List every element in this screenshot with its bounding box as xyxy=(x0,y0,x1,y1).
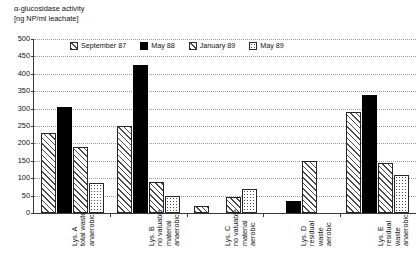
bar[interactable] xyxy=(57,107,72,213)
bar[interactable] xyxy=(41,133,56,213)
bar[interactable] xyxy=(286,201,301,213)
y-axis-tick-label: 350 xyxy=(18,87,30,94)
x-axis-tick-label: Lys. B no valuable material anaerobic xyxy=(148,188,182,246)
legend-label: January 89 xyxy=(200,41,236,50)
bar-group xyxy=(110,39,186,213)
x-axis-label-cell: Lys. B no valuable material anaerobic xyxy=(109,217,185,277)
y-axis-tick-label: 400 xyxy=(18,70,30,77)
legend-label: May 88 xyxy=(151,41,175,50)
legend-swatch-icon xyxy=(140,42,148,50)
y-axis-title: α-glucosidase activity [ng NP/ml leachat… xyxy=(14,4,84,23)
legend-label: September 87 xyxy=(81,41,126,50)
bar-group xyxy=(263,39,339,213)
legend-swatch-icon xyxy=(70,42,78,50)
bar[interactable] xyxy=(362,95,377,213)
x-axis-tick-label: Lys. E residual waste anaerobic xyxy=(377,188,411,246)
legend-swatch-icon xyxy=(249,42,257,50)
legend-item[interactable]: May 89 xyxy=(249,41,284,50)
y-axis-tick-label: 50 xyxy=(22,192,30,199)
x-axis-tick-label: Lys. A total waste anaerobic xyxy=(71,188,96,246)
bar[interactable] xyxy=(133,65,148,213)
y-axis-tick-label: 100 xyxy=(18,174,30,181)
bar[interactable] xyxy=(117,126,132,213)
y-axis-tick-label: 300 xyxy=(18,105,30,112)
chart-legend: September 87May 88January 89May 89 xyxy=(70,41,284,50)
bar[interactable] xyxy=(194,206,209,213)
x-axis-tick-label: Lys. C no valuable material aerobic xyxy=(224,188,258,246)
y-axis-tick-mark xyxy=(31,213,34,214)
x-axis-label-cell: Lys. C no valuable material aerobic xyxy=(186,217,262,277)
legend-item[interactable]: May 88 xyxy=(140,41,175,50)
legend-label: May 89 xyxy=(260,41,284,50)
x-axis-labels: Lys. A total waste anaerobicLys. B no va… xyxy=(33,217,415,277)
x-axis-tick-label: Lys. D residual waste aerobic xyxy=(300,188,334,246)
y-axis-tick-label: 150 xyxy=(18,157,30,164)
y-axis-tick-label: 450 xyxy=(18,53,30,60)
bar-group xyxy=(340,39,416,213)
legend-item[interactable]: September 87 xyxy=(70,41,126,50)
y-axis-tick-label: 0 xyxy=(26,209,30,216)
bar-group xyxy=(34,39,110,213)
chart-container: α-glucosidase activity [ng NP/ml leachat… xyxy=(0,0,419,277)
bar-group xyxy=(187,39,263,213)
bar-groups xyxy=(34,39,416,213)
legend-swatch-icon xyxy=(189,42,197,50)
legend-item[interactable]: January 89 xyxy=(189,41,236,50)
x-axis-label-cell: Lys. E residual waste anaerobic xyxy=(339,217,415,277)
y-axis-tick-label: 500 xyxy=(18,35,30,42)
bar[interactable] xyxy=(346,112,361,213)
y-axis-tick-label: 250 xyxy=(18,122,30,129)
y-axis-tick-label: 200 xyxy=(18,140,30,147)
x-axis-label-cell: Lys. A total waste anaerobic xyxy=(33,217,109,277)
x-axis-label-cell: Lys. D residual waste aerobic xyxy=(262,217,338,277)
